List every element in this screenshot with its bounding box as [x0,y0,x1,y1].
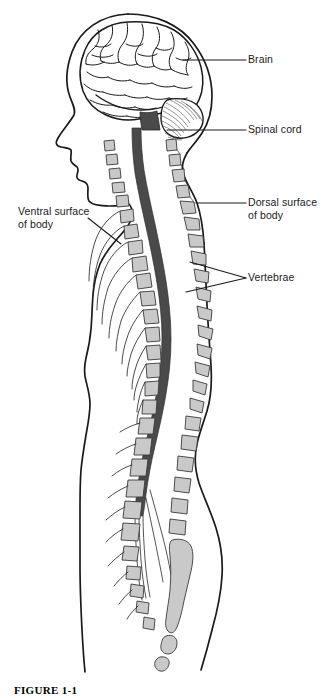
vertebra-body [140,291,156,306]
vertebra-body [128,240,143,255]
vertebra-body [126,566,141,580]
vertebra-body [138,418,155,434]
spinous-process [181,435,198,451]
brain-stem [140,111,160,130]
leader-line-vertebrae-lower [186,278,246,292]
vertebra-body [145,327,160,342]
spinous-process [197,306,212,321]
label-vertebrae: Vertebrae [248,271,294,284]
vertebra-body [146,345,161,360]
spinous-process [193,380,207,395]
vertebra-body [145,381,159,396]
vertebra-body [106,154,118,165]
coccyx-tip [155,657,169,671]
spinous-process [188,234,204,247]
figure-caption: FIGURE 1-1 [14,684,77,696]
spinous-process [174,477,191,493]
spinous-process [194,269,209,283]
vertebra-body [142,400,157,414]
label-ventral-surface: Ventral surface of body [18,205,90,230]
brain-group [80,22,203,140]
spinous-process [198,325,213,340]
spinous-process [166,139,177,151]
vertebra-body [143,309,159,324]
spinous-process [171,498,188,514]
vertebra-body [132,256,148,272]
vertebra-body [112,182,125,193]
spinous-process [185,416,201,431]
anatomy-figure: Brain Spinal cord Dorsal surface of body… [0,0,327,697]
ventral-torso-contour [80,203,132,672]
spinous-process [184,217,200,230]
vertebra-body [143,617,155,630]
vertebra-body [146,363,160,378]
spinous-process [190,398,204,413]
label-spinal-cord: Spinal cord [248,123,302,136]
spinous-process [169,519,186,535]
vertebra-body [130,584,144,598]
label-brain: Brain [248,53,273,66]
coccyx [161,635,177,654]
vertebra-body [120,209,134,223]
vertebra-body [124,224,139,239]
spinous-process [169,154,181,166]
vertebra-body [121,523,140,541]
spinous-processes-group [166,139,213,535]
vertebra-body [123,501,142,519]
spinous-process [195,362,210,377]
vertebra-body [130,459,148,476]
vertebra-body [109,168,121,179]
sacrum [166,539,193,633]
vertebra-body [126,480,145,497]
spinous-process [177,456,194,472]
vertebra-body [134,438,152,455]
vertebra-body [116,195,129,207]
anatomy-diagram-svg [0,0,327,697]
vertebra-body [122,546,139,561]
spinous-process [172,169,185,182]
vertebra-body [136,601,149,614]
spinous-process [180,201,196,214]
label-dorsal-surface: Dorsal surface of body [248,196,317,221]
spinous-process [176,185,190,198]
vertebra-body [136,273,152,289]
vertebra-body [104,140,115,151]
